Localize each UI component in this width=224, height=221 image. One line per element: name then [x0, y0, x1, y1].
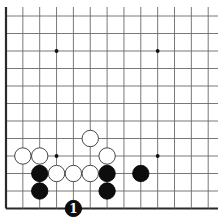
- white-stone-icon: [82, 130, 98, 146]
- black-stone-icon: [32, 165, 48, 181]
- black-stone[interactable]: [32, 183, 48, 199]
- black-stone[interactable]: [99, 165, 115, 181]
- go-board[interactable]: 1: [0, 0, 224, 221]
- star-point-icon: [156, 154, 160, 158]
- white-stone[interactable]: [15, 148, 31, 164]
- white-stone-icon: [82, 165, 98, 181]
- star-point-icon: [55, 49, 59, 53]
- white-stone[interactable]: [65, 165, 81, 181]
- white-stone[interactable]: [32, 148, 48, 164]
- white-stone[interactable]: [99, 148, 115, 164]
- black-stone-icon: [32, 183, 48, 199]
- white-stone[interactable]: [48, 165, 64, 181]
- white-stone[interactable]: [82, 130, 98, 146]
- black-stone[interactable]: [32, 165, 48, 181]
- white-stone-icon: [48, 165, 64, 181]
- star-point-icon: [55, 154, 59, 158]
- move-number-label: 1: [69, 202, 77, 216]
- white-stone[interactable]: [82, 165, 98, 181]
- black-stone[interactable]: [99, 183, 115, 199]
- white-stone-icon: [15, 148, 31, 164]
- white-stone-icon: [99, 148, 115, 164]
- black-stone-icon: [99, 183, 115, 199]
- star-point-icon: [156, 49, 160, 53]
- black-stone[interactable]: 1: [65, 200, 81, 216]
- black-stone-icon: [133, 165, 149, 181]
- white-stone-icon: [32, 148, 48, 164]
- black-stone[interactable]: [133, 165, 149, 181]
- white-stone-icon: [65, 165, 81, 181]
- black-stone-icon: [99, 165, 115, 181]
